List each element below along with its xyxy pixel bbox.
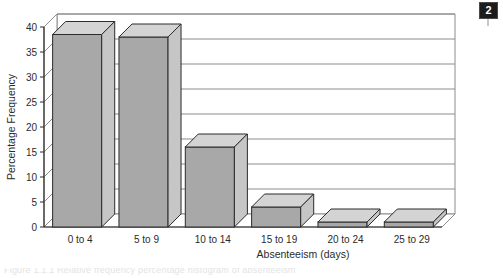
bar — [185, 134, 247, 227]
bar — [53, 22, 115, 228]
y-tick-label: 30 — [26, 72, 38, 83]
x-tick-label: 25 to 29 — [394, 234, 431, 245]
bar-chart: 05101520253035400 to 45 to 910 to 1415 t… — [0, 0, 503, 278]
badge-label: 2 — [485, 5, 491, 16]
y-tick-label: 10 — [26, 172, 38, 183]
bar-front-face — [53, 35, 102, 228]
figure-caption: Figure 1.1.1 Relative frequency percenta… — [4, 268, 296, 275]
x-tick-label: 20 to 24 — [327, 234, 364, 245]
y-axis-title: Percentage Frequency — [5, 73, 17, 180]
bar-front-face — [384, 222, 433, 227]
bar-front-face — [119, 37, 168, 227]
x-axis-labels: 0 to 45 to 910 to 1415 to 1920 to 2425 t… — [68, 234, 431, 245]
x-axis-title: Absenteeism (days) — [257, 248, 350, 260]
figure-container: 05101520253035400 to 45 to 910 to 1415 t… — [0, 0, 503, 278]
x-tick-label: 10 to 14 — [195, 234, 232, 245]
page-number-badge: 2 — [478, 2, 498, 26]
y-tick-label: 35 — [26, 47, 38, 58]
y-tick-label: 40 — [26, 22, 38, 33]
bar-front-face — [252, 207, 301, 227]
y-tick-label: 15 — [26, 147, 38, 158]
bar-side-face — [234, 134, 247, 227]
x-tick-label: 15 to 19 — [261, 234, 298, 245]
x-tick-label: 0 to 4 — [68, 234, 93, 245]
bar-side-face — [102, 22, 115, 228]
bar-front-face — [318, 222, 367, 227]
bar-side-face — [168, 24, 181, 227]
badge-chip: 2 — [479, 2, 498, 19]
figure-caption-strip: Figure 1.1.1 Relative frequency percenta… — [0, 268, 503, 278]
y-tick-label: 0 — [31, 222, 37, 233]
y-tick-label: 25 — [26, 97, 38, 108]
bar — [252, 194, 314, 227]
x-tick-label: 5 to 9 — [134, 234, 159, 245]
bar — [119, 24, 181, 227]
y-tick-label: 20 — [26, 122, 38, 133]
bar-front-face — [185, 147, 234, 227]
y-tick-label: 5 — [31, 197, 37, 208]
y-axis-ticks: 0510152025303540 — [26, 22, 44, 233]
